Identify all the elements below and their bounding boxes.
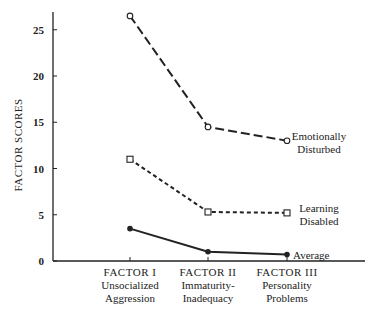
x-category-label: FACTOR III <box>256 266 317 278</box>
series-line <box>130 159 287 213</box>
series-label: Learning <box>299 202 339 214</box>
series-line <box>130 16 287 141</box>
data-point <box>205 209 211 215</box>
y-tick-label: 15 <box>33 116 45 128</box>
y-tick-label: 0 <box>39 255 45 267</box>
series-learning-disabled <box>127 156 290 216</box>
y-axis-label: FACTOR SCORES <box>12 98 24 191</box>
series-label: Disturbed <box>297 143 341 155</box>
x-category-label: Inadequacy <box>183 292 234 304</box>
series-emotionally-disturbed <box>127 13 290 143</box>
series-lines <box>127 13 290 257</box>
x-category-label: FACTOR I <box>104 266 157 278</box>
y-tick-label: 20 <box>33 70 45 82</box>
data-point <box>205 124 211 130</box>
factor-scores-chart: 0510152025 FACTOR IUnsocializedAggressio… <box>0 0 377 312</box>
series-label: Average <box>293 249 330 261</box>
x-category-label: Problems <box>266 292 308 304</box>
y-tick-label: 10 <box>33 163 45 175</box>
x-category-label: Aggression <box>105 292 156 304</box>
x-category-label: Immaturity- <box>181 279 234 291</box>
y-tick-label: 5 <box>39 209 45 221</box>
x-axis-categories: FACTOR IUnsocializedAggressionFACTOR III… <box>101 257 317 304</box>
data-point <box>284 210 290 216</box>
x-category-label: Unsocialized <box>101 279 159 291</box>
series-average <box>127 226 290 257</box>
series-label: Emotionally <box>292 130 347 142</box>
series-label: Disabled <box>299 215 339 227</box>
data-point <box>127 156 133 162</box>
data-point <box>205 249 211 255</box>
x-category-label: Personality <box>262 279 312 291</box>
y-tick-label: 25 <box>33 24 45 36</box>
data-point <box>284 252 290 258</box>
data-point <box>127 226 133 232</box>
x-category-label: FACTOR II <box>180 266 237 278</box>
data-point <box>127 13 133 19</box>
series-labels: EmotionallyDisturbedLearningDisabledAver… <box>292 130 347 261</box>
data-point <box>284 138 290 144</box>
